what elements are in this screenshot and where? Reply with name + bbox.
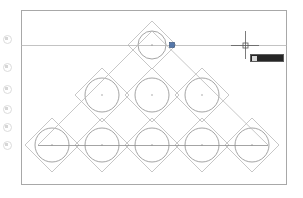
apex-construction-line-1[interactable] xyxy=(152,31,268,145)
center-point xyxy=(101,144,102,145)
drawing-canvas[interactable] xyxy=(0,0,303,198)
center-point xyxy=(151,94,152,95)
diamond-shapes-group[interactable] xyxy=(25,21,279,172)
center-points-group xyxy=(51,44,252,145)
dynamic-input-tooltip xyxy=(250,54,284,62)
center-point xyxy=(201,94,202,95)
selection-grip[interactable] xyxy=(170,43,175,48)
selection-grip-square[interactable] xyxy=(170,43,175,48)
center-point xyxy=(251,144,252,145)
cad-application-window xyxy=(0,0,303,198)
center-point xyxy=(151,144,152,145)
drawing-sheet-border xyxy=(22,11,287,185)
center-point xyxy=(101,94,102,95)
inscribed-circles-group[interactable] xyxy=(35,31,269,162)
apex-construction-line-0[interactable] xyxy=(38,31,152,145)
center-point xyxy=(151,44,152,45)
center-point xyxy=(201,144,202,145)
center-point xyxy=(51,144,52,145)
tooltip-field-icon xyxy=(252,56,257,61)
